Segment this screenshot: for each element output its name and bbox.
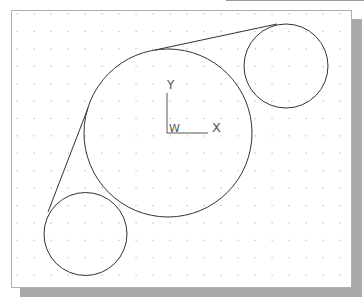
grid-dot xyxy=(136,66,137,67)
grid-dot xyxy=(272,257,273,258)
grid-dot xyxy=(136,205,137,206)
grid-dot xyxy=(255,170,256,171)
grid-dot xyxy=(289,48,290,49)
grid-dot xyxy=(119,153,120,154)
grid-dot xyxy=(272,118,273,119)
grid-dot xyxy=(272,275,273,276)
grid-dot xyxy=(119,170,120,171)
grid-dot xyxy=(68,31,69,32)
grid-dot xyxy=(340,240,341,241)
grid-dot xyxy=(255,257,256,258)
grid-dot xyxy=(221,222,222,223)
grid-dot xyxy=(289,135,290,136)
grid-dot xyxy=(153,205,154,206)
grid-dot xyxy=(34,14,35,15)
grid-dot xyxy=(340,222,341,223)
grid-dot xyxy=(187,14,188,15)
grid-dot xyxy=(238,257,239,258)
grid-dot xyxy=(34,48,35,49)
grid-dot xyxy=(340,83,341,84)
grid-dot xyxy=(119,118,120,119)
grid-dot xyxy=(102,188,103,189)
grid-dot xyxy=(323,222,324,223)
grid-dot xyxy=(68,240,69,241)
grid-dot xyxy=(289,257,290,258)
grid-dot xyxy=(51,135,52,136)
top-tangent-line[interactable] xyxy=(155,24,277,50)
grid-dot xyxy=(136,83,137,84)
grid-dot xyxy=(68,14,69,15)
grid-dot xyxy=(170,188,171,189)
grid-dot xyxy=(170,257,171,258)
grid-dot xyxy=(102,153,103,154)
grid-dot xyxy=(51,48,52,49)
grid-dot xyxy=(153,118,154,119)
grid-dot xyxy=(221,14,222,15)
grid-dot xyxy=(170,275,171,276)
grid-dot xyxy=(187,101,188,102)
grid-dot xyxy=(204,222,205,223)
grid-dot xyxy=(85,153,86,154)
grid-dot xyxy=(85,170,86,171)
grid-dot xyxy=(102,118,103,119)
grid-dot xyxy=(340,14,341,15)
grid-dot xyxy=(306,188,307,189)
grid-dot xyxy=(68,83,69,84)
grid-dot xyxy=(340,188,341,189)
grid-dot xyxy=(17,257,18,258)
grid-dot xyxy=(170,222,171,223)
grid-dot xyxy=(136,31,137,32)
grid-dot xyxy=(289,188,290,189)
grid-dot xyxy=(17,118,18,119)
grid-dot xyxy=(68,66,69,67)
grid-dot xyxy=(323,275,324,276)
grid-dot xyxy=(68,101,69,102)
grid-dot xyxy=(306,118,307,119)
grid-dot xyxy=(102,66,103,67)
grid-dot xyxy=(119,48,120,49)
grid-dot xyxy=(221,118,222,119)
grid-dot xyxy=(289,205,290,206)
grid-dot xyxy=(255,153,256,154)
grid-dot xyxy=(51,66,52,67)
grid-dot xyxy=(136,118,137,119)
grid-dot xyxy=(170,240,171,241)
grid-dot xyxy=(102,48,103,49)
grid-dot xyxy=(306,135,307,136)
grid-dot xyxy=(204,153,205,154)
grid-dot xyxy=(85,222,86,223)
grid-dot xyxy=(255,275,256,276)
grid-dot xyxy=(306,101,307,102)
grid-dot xyxy=(340,257,341,258)
grid-dot xyxy=(289,118,290,119)
grid-dot xyxy=(136,14,137,15)
grid-dot xyxy=(170,135,171,136)
grid-dot xyxy=(323,170,324,171)
grid-dot xyxy=(221,275,222,276)
grid-dot xyxy=(340,101,341,102)
grid-dot xyxy=(68,222,69,223)
grid-dot xyxy=(340,275,341,276)
grid-dot xyxy=(17,66,18,67)
grid-dot xyxy=(17,31,18,32)
top-right-circle[interactable] xyxy=(244,24,328,108)
grid-dot xyxy=(102,240,103,241)
grid-dot xyxy=(119,135,120,136)
grid-dot xyxy=(255,240,256,241)
grid-dot xyxy=(17,275,18,276)
grid-dot xyxy=(51,14,52,15)
grid-dot xyxy=(221,135,222,136)
grid-dot xyxy=(68,48,69,49)
grid-dot xyxy=(51,188,52,189)
grid-dot xyxy=(34,66,35,67)
grid-dot xyxy=(255,31,256,32)
grid-dot xyxy=(170,205,171,206)
grid-dot xyxy=(272,153,273,154)
grid-dot xyxy=(187,48,188,49)
grid-dot xyxy=(289,240,290,241)
grid-dot xyxy=(119,31,120,32)
grid-dot xyxy=(17,83,18,84)
drawing-canvas[interactable]: Y W X xyxy=(0,0,364,308)
grid-dot xyxy=(255,14,256,15)
grid-dot xyxy=(34,240,35,241)
